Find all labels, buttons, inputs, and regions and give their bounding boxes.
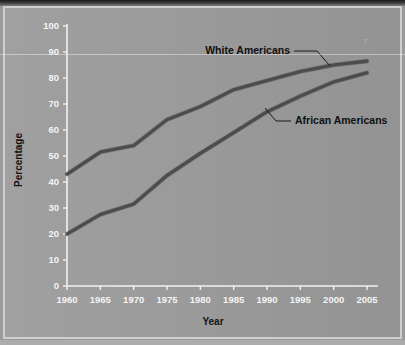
- y-tick-label: 100: [43, 20, 59, 31]
- y-tick-label: 70: [48, 98, 59, 109]
- x-tick-label: 1970: [123, 294, 144, 305]
- y-tick-label: 40: [48, 176, 59, 187]
- y-axis-ticks: 0102030405060708090100: [43, 20, 67, 291]
- x-tick-label: 1995: [290, 294, 312, 305]
- x-axis-ticks: 1960196519701975198019851990199520002005: [56, 286, 378, 305]
- y-tick-label: 80: [48, 72, 59, 83]
- x-tick-label: 1985: [223, 294, 245, 305]
- figure-container: 0102030405060708090100 19601965197019751…: [0, 0, 405, 345]
- x-tick-label: 2005: [356, 294, 378, 305]
- x-axis-title: Year: [202, 316, 223, 327]
- annotation-white-americans-label: White Americans: [205, 44, 290, 56]
- x-tick-label: 1975: [156, 294, 178, 305]
- x-tick-label: 1965: [90, 294, 112, 305]
- y-tick-label: 60: [48, 124, 59, 135]
- y-tick-label: 0: [54, 280, 59, 291]
- series-group: [67, 61, 367, 234]
- annotation-white-americans-leader: [294, 51, 330, 66]
- x-tick-label: 1980: [190, 294, 211, 305]
- x-tick-label: 1960: [56, 294, 77, 305]
- y-tick-label: 90: [48, 46, 59, 57]
- plate-bottom-shade: [0, 340, 405, 345]
- x-tick-label: 1990: [256, 294, 277, 305]
- y-tick-label: 10: [48, 254, 59, 265]
- y-tick-label: 30: [48, 202, 59, 213]
- y-tick-label: 50: [48, 150, 59, 161]
- y-tick-label: 20: [48, 228, 59, 239]
- x-tick-label: 2000: [323, 294, 344, 305]
- page-corner-mark: 7: [363, 37, 368, 46]
- y-axis-title: Percentage: [13, 133, 24, 187]
- line-chart: 0102030405060708090100 19601965197019751…: [0, 0, 405, 345]
- annotation-african-americans-label: African Americans: [295, 114, 388, 126]
